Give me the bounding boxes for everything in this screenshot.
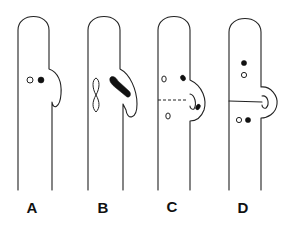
filled-nucleus-c-upper	[180, 74, 187, 81]
panel-a	[18, 17, 61, 191]
panel-d	[229, 19, 277, 191]
clamp-tip-c	[190, 94, 195, 109]
filled-nucleus-d-lower	[245, 117, 250, 122]
hypha-wall-c	[158, 17, 205, 191]
dividing-filled-nucleus-b	[110, 77, 131, 98]
open-nucleus-d-upper	[241, 72, 246, 77]
panel-c	[158, 17, 205, 191]
clamp-connection-diagram: A B C D	[0, 0, 291, 225]
panel-label-c: C	[167, 199, 178, 214]
open-nucleus-d-lower	[236, 117, 241, 122]
filled-nucleus-d-upper	[241, 60, 246, 65]
hypha-wall-d	[229, 19, 277, 191]
open-nucleus-c-lower	[166, 113, 170, 119]
septum-d	[229, 101, 262, 102]
open-nucleus-a	[27, 77, 33, 83]
dividing-open-nucleus-b	[93, 78, 99, 112]
open-nucleus-c-upper	[162, 76, 166, 82]
panel-b	[88, 17, 137, 191]
hypha-wall-a	[18, 17, 61, 191]
panel-label-d: D	[238, 200, 249, 215]
filled-nucleus-a	[38, 77, 44, 83]
clamp-fusion-d	[262, 96, 268, 108]
panel-label-a: A	[27, 200, 38, 215]
panel-label-b: B	[98, 200, 109, 215]
